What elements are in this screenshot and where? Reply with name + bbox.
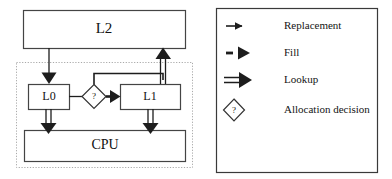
legend-box bbox=[217, 9, 378, 173]
connection-l1-to-l2-arrowhead bbox=[156, 48, 172, 60]
figure-root: L2 L0 L1 CPU ? bbox=[0, 0, 392, 179]
l0-box-label: L0 bbox=[42, 89, 55, 103]
diamond-question-icon-label: ? bbox=[232, 105, 236, 115]
cache-hierarchy-diagram: L2 L0 L1 CPU ? bbox=[0, 0, 392, 179]
legend-item-fill-label: Fill bbox=[284, 46, 299, 58]
legend-item-replacement-label: Replacement bbox=[284, 19, 341, 31]
connection-decision-to-l1-arrowhead bbox=[110, 90, 121, 103]
legend-item-allocation-decision-label: Allocation decision bbox=[284, 103, 370, 115]
l1-box-label: L1 bbox=[143, 89, 156, 103]
cpu-box-label: CPU bbox=[91, 137, 118, 152]
connection-decision-top-to-riser bbox=[94, 74, 163, 85]
l2-box-label: L2 bbox=[96, 20, 113, 36]
allocation-decision-diamond-label: ? bbox=[92, 91, 96, 101]
legend-item-lookup-label: Lookup bbox=[284, 73, 319, 85]
connection-l2-to-l0-arrowhead bbox=[42, 73, 57, 85]
